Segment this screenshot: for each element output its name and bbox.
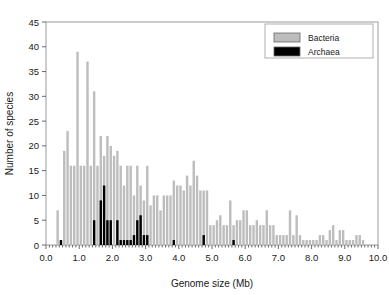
bar-archaea <box>120 240 122 245</box>
bar-bacteria <box>209 225 211 245</box>
bar-bacteria <box>299 235 301 245</box>
bar-bacteria <box>252 225 254 245</box>
bar-bacteria <box>292 235 294 245</box>
bar-bacteria <box>236 220 238 245</box>
bar-archaea <box>116 220 118 245</box>
bar-bacteria <box>193 161 195 245</box>
bar-archaea <box>143 235 145 245</box>
y-tick-label: 15 <box>28 165 39 176</box>
bar-bacteria <box>259 225 261 245</box>
bar-bacteria <box>76 52 78 245</box>
bar-bacteria <box>70 166 72 245</box>
bar-bacteria <box>246 210 248 245</box>
x-tick-label: 4.0 <box>172 252 185 263</box>
bar-bacteria <box>123 186 125 245</box>
bar-bacteria <box>189 186 191 245</box>
bar-archaea <box>93 220 95 245</box>
bar-archaea <box>232 240 234 245</box>
bar-bacteria <box>179 186 181 245</box>
bar-bacteria <box>335 240 337 245</box>
y-tick-label: 45 <box>28 17 39 28</box>
bar-archaea <box>129 240 131 245</box>
bar-archaea <box>146 235 148 245</box>
bar-bacteria <box>153 195 155 245</box>
bar-bacteria <box>173 181 175 245</box>
bar-archaea <box>103 186 105 245</box>
y-tick-label: 30 <box>28 91 39 102</box>
bar-bacteria <box>349 240 351 245</box>
legend: BacteriaArchaea <box>265 24 373 58</box>
y-tick-label: 10 <box>28 190 39 201</box>
x-tick-label: 2.0 <box>106 252 119 263</box>
bar-bacteria <box>312 240 314 245</box>
bar-bacteria <box>272 225 274 245</box>
x-tick-label: 5.0 <box>205 252 218 263</box>
bar-bacteria <box>83 166 85 245</box>
bar-bacteria <box>289 210 291 245</box>
bar-bacteria <box>325 240 327 245</box>
x-tick-label: 6.0 <box>239 252 252 263</box>
bar-archaea <box>173 240 175 245</box>
bar-bacteria <box>159 210 161 245</box>
bar-bacteria <box>183 190 185 245</box>
bar-bacteria <box>322 235 324 245</box>
bar-bacteria <box>66 131 68 245</box>
bars-group <box>56 52 364 245</box>
bar-bacteria <box>286 235 288 245</box>
bar-bacteria <box>169 195 171 245</box>
x-tick-label: 9.0 <box>338 252 351 263</box>
legend-swatch-archaea <box>274 47 300 56</box>
bar-bacteria <box>96 166 98 245</box>
bar-bacteria <box>176 186 178 245</box>
bar-bacteria <box>163 195 165 245</box>
bar-bacteria <box>332 225 334 245</box>
y-axis-title: Number of species <box>4 92 15 175</box>
bar-bacteria <box>249 225 251 245</box>
y-tick-label: 0 <box>34 240 39 251</box>
bar-bacteria <box>222 225 224 245</box>
bar-bacteria <box>262 225 264 245</box>
bar-bacteria <box>219 215 221 245</box>
y-tick-label: 25 <box>28 116 39 127</box>
x-tick-label: 7.0 <box>272 252 285 263</box>
bar-bacteria <box>80 166 82 245</box>
x-axis: 0.01.02.03.04.05.06.07.08.09.010.0 <box>39 245 387 263</box>
bar-bacteria <box>309 240 311 245</box>
y-axis: 051015202530354045 <box>28 17 46 251</box>
bar-bacteria <box>362 240 364 245</box>
bar-bacteria <box>229 200 231 245</box>
bar-bacteria <box>242 210 244 245</box>
bar-bacteria <box>120 166 122 245</box>
bar-archaea <box>106 220 108 245</box>
bar-bacteria <box>305 240 307 245</box>
bar-bacteria <box>352 240 354 245</box>
genome-size-histogram-figure: 0510152025303540450.01.02.03.04.05.06.07… <box>0 0 389 295</box>
bar-archaea <box>60 240 62 245</box>
bar-bacteria <box>113 156 115 245</box>
bar-bacteria <box>126 166 128 245</box>
bar-archaea <box>133 235 135 245</box>
legend-label-archaea: Archaea <box>308 47 340 57</box>
bar-bacteria <box>345 240 347 245</box>
bar-bacteria <box>295 215 297 245</box>
bar-bacteria <box>90 166 92 245</box>
bar-bacteria <box>269 225 271 245</box>
bar-bacteria <box>73 166 75 245</box>
bar-archaea <box>110 220 112 245</box>
bar-bacteria <box>315 240 317 245</box>
bar-bacteria <box>302 240 304 245</box>
bar-bacteria <box>282 235 284 245</box>
bar-bacteria <box>239 220 241 245</box>
x-tick-label: 1.0 <box>73 252 86 263</box>
bar-bacteria <box>56 210 58 245</box>
y-tick-label: 20 <box>28 140 39 151</box>
legend-label-bacteria: Bacteria <box>308 33 339 43</box>
x-tick-label: 3.0 <box>139 252 152 263</box>
bar-bacteria <box>276 235 278 245</box>
y-tick-label: 5 <box>34 215 39 226</box>
bar-archaea <box>123 240 125 245</box>
x-axis-title: Genome size (Mb) <box>171 278 253 289</box>
bar-bacteria <box>63 151 65 245</box>
y-tick-label: 40 <box>28 41 39 52</box>
bar-bacteria <box>216 220 218 245</box>
